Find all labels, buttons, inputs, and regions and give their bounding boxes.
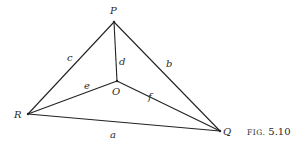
edge-e	[28, 81, 117, 114]
vertex-o-dot	[116, 80, 118, 82]
edge-label-d: d	[119, 56, 125, 67]
figure-caption-prefix: FIG.	[247, 128, 265, 137]
edge-d	[114, 22, 117, 81]
vertex-label-q: Q	[223, 126, 231, 137]
edge-b	[114, 22, 220, 131]
tetrahedron-diagram: P O R Q a b c d e f FIG.5.10	[0, 0, 300, 144]
vertex-label-o: O	[112, 86, 120, 97]
vertex-label-p: P	[109, 5, 117, 16]
vertex-q-dot	[219, 130, 221, 132]
figure-caption-number: 5.10	[268, 126, 290, 137]
edge-label-c: c	[67, 52, 73, 63]
figure-caption: FIG.5.10	[247, 126, 291, 137]
edge-label-f: f	[147, 91, 154, 102]
edge-label-a: a	[110, 129, 116, 140]
vertex-p-dot	[113, 21, 115, 23]
edge-label-e: e	[84, 80, 90, 91]
vertex-r-dot	[27, 113, 29, 115]
edge-c	[28, 22, 114, 114]
edge-label-b: b	[166, 58, 172, 69]
vertex-label-r: R	[13, 109, 22, 120]
